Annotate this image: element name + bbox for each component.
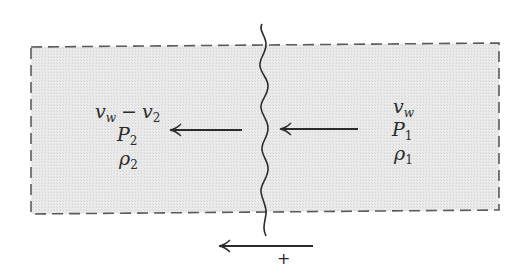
control-volume-box — [31, 43, 499, 214]
downstream-velocity-label: vw−v2 — [95, 102, 160, 124]
positive-direction-arrow — [219, 240, 313, 252]
downstream-pressure-label: P2 — [117, 125, 137, 147]
upstream-velocity-label: vw — [393, 97, 414, 119]
diagram-canvas — [0, 0, 529, 273]
downstream-density-label: ρ2 — [119, 149, 138, 171]
upstream-density-label: ρ1 — [394, 144, 413, 166]
upstream-pressure-label: P1 — [392, 120, 412, 142]
positive-sign-label: + — [277, 251, 290, 267]
